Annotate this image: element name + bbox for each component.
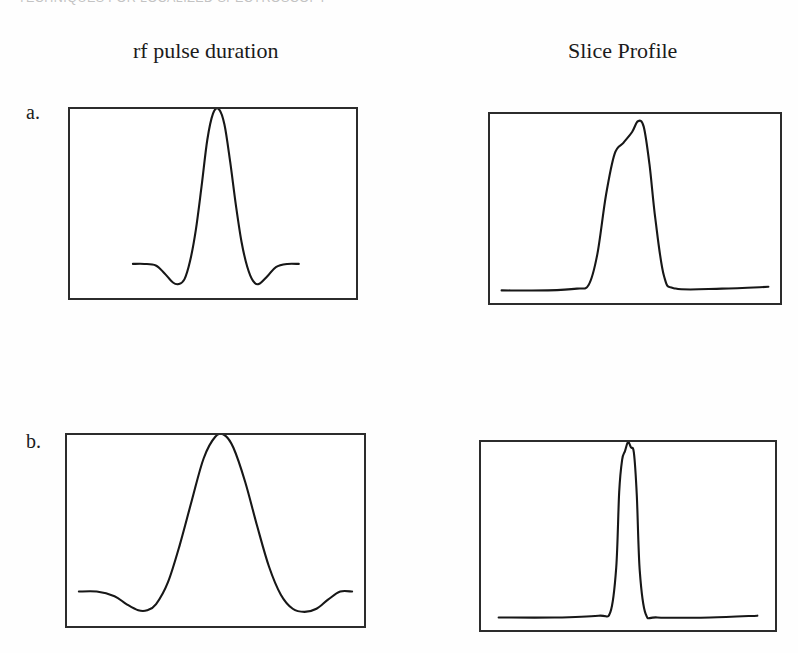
waveform-trace [502,121,769,291]
plot-a-rf-pulse-duration [68,107,358,300]
waveform-trace [499,442,758,618]
panel-letter-b: b. [26,430,41,453]
plot-b-rf-pulse-trace-svg [67,435,364,626]
plot-b-slice-profile-trace-svg [481,442,775,630]
waveform-trace [133,109,299,284]
plot-a-slice-profile-trace-svg [490,114,780,303]
figure-page: TECHNIQUES FOR LOCALIZED SPECTROSCOPY rf… [0,0,798,653]
waveform-trace [79,435,352,612]
column-title-slice-profile: Slice Profile [568,38,677,64]
plot-a-slice-profile [488,112,782,305]
plot-a-rf-pulse-trace-svg [70,109,356,298]
column-title-rf-pulse-duration: rf pulse duration [133,38,278,64]
panel-letter-a: a. [26,101,40,124]
running-header: TECHNIQUES FOR LOCALIZED SPECTROSCOPY [18,0,438,5]
plot-b-rf-pulse-duration [65,433,366,628]
plot-b-slice-profile [479,440,777,632]
